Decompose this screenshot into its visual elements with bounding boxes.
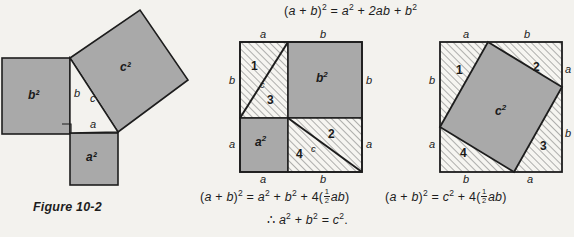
r-endparen: ) — [502, 190, 506, 204]
m-eq: = — [247, 190, 255, 204]
middle-edge-top-left: a — [260, 28, 266, 40]
m-plus2: + — [274, 190, 282, 204]
middle-edge-bottom-left: a — [260, 173, 266, 185]
right-region-2: 2 — [533, 60, 540, 74]
right-edge-left-top: b — [429, 74, 435, 86]
right-edge-top-left: a — [463, 28, 469, 40]
m-endparen: ) — [345, 190, 349, 204]
r-ab: ab — [488, 190, 502, 204]
middle-hyp-c-upper: c — [260, 79, 265, 90]
c-be: 2 — [313, 211, 318, 221]
right-edge-bottom-right: a — [527, 173, 533, 185]
eq-top-plus2: + — [358, 4, 366, 18]
c-ae: 2 — [286, 211, 291, 221]
c-eq: = — [322, 213, 330, 227]
c-plus: + — [295, 213, 303, 227]
middle-edge-left-top: b — [229, 74, 235, 86]
left-label-c2: c² — [120, 60, 131, 74]
right-region-3: 3 — [540, 139, 547, 153]
left-label-a2: a² — [86, 150, 97, 164]
r-plus3: + — [458, 190, 466, 204]
eq-top-plus1: + — [299, 4, 307, 18]
c-b: b — [306, 213, 313, 227]
eq-top-b: b — [310, 4, 317, 18]
middle-edge-right-top: b — [366, 74, 372, 86]
middle-region-1: 1 — [251, 59, 258, 73]
middle-edge-top-right: b — [320, 28, 326, 40]
eq-top-plus3: + — [394, 4, 402, 18]
right-region-1: 1 — [456, 63, 463, 77]
eq-top-a2: a — [342, 4, 349, 18]
right-edge-top-right: b — [524, 28, 530, 40]
r-b: b — [411, 190, 418, 204]
m-t2: b — [285, 190, 292, 204]
r-half-num: 1 — [481, 188, 487, 196]
m-half-num: 1 — [324, 188, 330, 196]
r-t1e: 2 — [449, 188, 454, 198]
c-a: a — [279, 213, 286, 227]
m-half-den: 2 — [324, 196, 330, 205]
r-plus1: + — [400, 190, 408, 204]
m-exp: 2 — [238, 188, 243, 198]
r-eq: = — [432, 190, 440, 204]
m-plus1: + — [215, 190, 223, 204]
right-region-4: 4 — [460, 146, 467, 160]
leg-a-label: a — [90, 118, 96, 130]
right-edge-bottom-left: b — [463, 173, 469, 185]
m-four: 4( — [312, 190, 324, 204]
right-edge-right-top: a — [565, 63, 571, 75]
r-a: a — [389, 190, 396, 204]
left-label-b2: b² — [28, 88, 39, 102]
right-edge-right-bottom: b — [565, 127, 571, 139]
hypotenuse-c-label: c — [90, 92, 96, 104]
r-exp: 2 — [423, 188, 428, 198]
eq-top-exp3: 2 — [412, 2, 417, 12]
middle-hyp-c-lower: c — [311, 143, 316, 154]
m-t2e: 2 — [292, 188, 297, 198]
r-four: 4( — [469, 190, 481, 204]
middle-area-b2: b2 — [316, 70, 328, 85]
m-t1: a — [258, 190, 265, 204]
middle-edge-bottom-right: b — [320, 173, 326, 185]
middle-region-4: 4 — [296, 147, 303, 161]
r-half-den: 2 — [481, 196, 487, 205]
equation-right-identity: (a + b)2 = c2 + 4(12ab) — [385, 188, 507, 204]
figure-stage: b² a² c² b a c Figure 10-2 1 3 2 4 b2 a2… — [0, 0, 574, 237]
eq-top-exp1: 2 — [322, 2, 327, 12]
m-a: a — [204, 190, 211, 204]
r-half-fraction: 12 — [481, 188, 487, 204]
m-b: b — [226, 190, 233, 204]
equation-expansion: (a + b)2 = a2 + 2ab + b2 — [284, 2, 417, 18]
middle-edge-left-bottom: a — [229, 138, 235, 150]
eq-top-2ab: 2ab — [369, 4, 390, 18]
leg-b-label: b — [74, 87, 80, 99]
eq-top-a: a — [288, 4, 295, 18]
middle-region-3: 3 — [267, 93, 274, 107]
m-half-fraction: 12 — [324, 188, 330, 204]
c-period: . — [344, 213, 348, 227]
equation-conclusion: ∴ a2 + b2 = c2. — [267, 211, 348, 227]
m-plus3: + — [301, 190, 309, 204]
figure-caption: Figure 10-2 — [33, 200, 102, 214]
eq-top-equals: = — [331, 4, 339, 18]
c-therefore: ∴ — [267, 213, 275, 227]
right-area-c2: c2 — [495, 103, 506, 118]
right-edge-left-bottom: a — [429, 138, 435, 150]
equation-middle-identity: (a + b)2 = a2 + b2 + 4(12ab) — [200, 188, 349, 204]
middle-edge-right-bottom: a — [366, 138, 372, 150]
middle-area-a2: a2 — [255, 134, 266, 149]
m-ab: ab — [331, 190, 345, 204]
m-t1e: 2 — [265, 188, 270, 198]
middle-region-2: 2 — [328, 127, 335, 141]
eq-top-exp2: 2 — [349, 2, 354, 12]
